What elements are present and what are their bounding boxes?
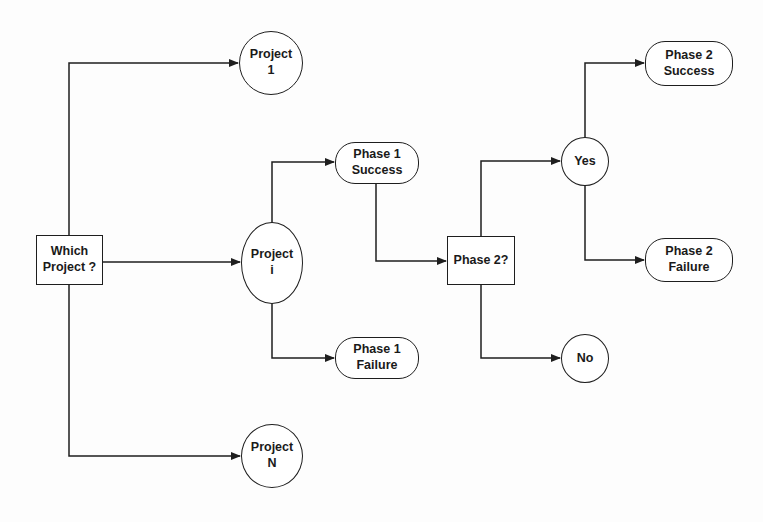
no-node: No	[561, 334, 609, 383]
edge-yes-to-phase2-success	[585, 63, 644, 137]
edge-project-i-to-phase1-failure	[272, 303, 334, 358]
edge-project-i-to-phase1-success	[272, 162, 334, 223]
phase-1-success-label: Phase 1 Success	[352, 147, 403, 178]
phase-2-decision-box: Phase 2?	[447, 236, 515, 285]
project-1-label: Project 1	[250, 47, 292, 78]
which-project-decision-box: Which Project ?	[36, 235, 103, 285]
phase-2-success-label: Phase 2 Success	[664, 48, 715, 79]
project-1-node: Project 1	[239, 31, 303, 95]
no-label: No	[577, 351, 594, 367]
phase-2-failure-node: Phase 2 Failure	[645, 238, 733, 282]
phase-1-success-node: Phase 1 Success	[335, 142, 419, 184]
phase-2-success-node: Phase 2 Success	[645, 41, 733, 86]
project-i-label: Project i	[251, 247, 293, 278]
yes-node: Yes	[561, 137, 609, 186]
phase-2-failure-label: Phase 2 Failure	[665, 244, 712, 275]
phase-2-decision-label: Phase 2?	[454, 253, 509, 269]
yes-label: Yes	[574, 154, 596, 170]
phase-1-failure-label: Phase 1 Failure	[353, 342, 400, 373]
phase-1-failure-node: Phase 1 Failure	[335, 337, 419, 379]
which-project-label: Which Project ?	[43, 244, 97, 275]
edge-yes-to-phase2-failure	[585, 185, 644, 260]
project-i-node: Project i	[241, 222, 303, 304]
project-n-label: Project N	[251, 440, 293, 471]
project-n-node: Project N	[241, 424, 303, 488]
edge-which-to-project-1	[69, 63, 238, 235]
edge-which-to-project-n	[69, 284, 240, 456]
edge-phase1-success-to-phase2	[376, 183, 446, 261]
edge-phase2-to-yes	[481, 161, 560, 236]
decision-tree-diagram: Which Project ? Project 1 Project i Proj…	[0, 0, 763, 522]
edge-phase2-to-no	[481, 284, 560, 358]
